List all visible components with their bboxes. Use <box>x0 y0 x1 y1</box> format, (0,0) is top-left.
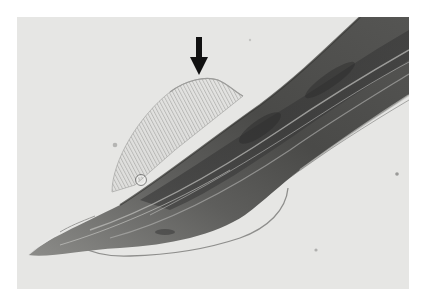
debris-speck <box>314 248 317 251</box>
debris-speck <box>395 172 399 176</box>
micrograph-image <box>17 17 409 289</box>
figure-canvas <box>0 0 428 303</box>
debris-speck <box>249 39 251 41</box>
debris-speck <box>113 143 118 148</box>
